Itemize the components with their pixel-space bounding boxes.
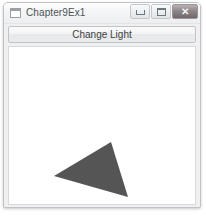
window-title: Chapter9Ex1	[26, 6, 85, 20]
maximize-button[interactable]	[151, 4, 171, 19]
maximize-icon	[157, 8, 166, 16]
title-bar[interactable]: Chapter9Ex1 ✕	[4, 3, 200, 24]
minimize-button[interactable]	[130, 4, 150, 19]
triangle-shape	[54, 142, 128, 197]
window-controls: ✕	[130, 4, 198, 19]
minimize-icon	[136, 10, 145, 15]
close-button[interactable]: ✕	[172, 4, 198, 19]
drawing-canvas[interactable]	[8, 46, 196, 205]
close-icon: ✕	[173, 5, 197, 18]
app-root: Chapter9Ex1 ✕ Change Light	[0, 0, 206, 217]
application-window: Chapter9Ex1 ✕ Change Light	[3, 2, 201, 208]
canvas-svg	[9, 47, 195, 204]
change-light-button[interactable]: Change Light	[8, 26, 196, 43]
client-area: Change Light	[4, 24, 200, 207]
window-document-icon	[10, 8, 21, 18]
